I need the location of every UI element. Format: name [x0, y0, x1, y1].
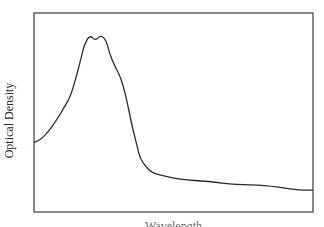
x-axis-label: Wavelength	[34, 219, 313, 227]
y-axis-label: Optical Density	[3, 70, 17, 170]
chart-canvas	[0, 0, 324, 227]
plot-frame	[34, 13, 313, 212]
data-line	[34, 36, 313, 190]
y-axis-label-text: Optical Density	[3, 82, 18, 158]
